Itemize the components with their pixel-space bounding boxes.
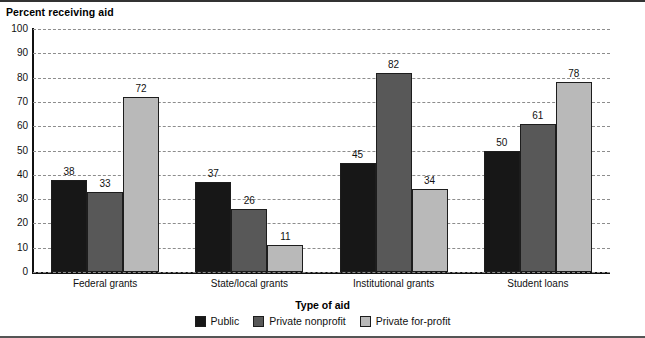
legend-item[interactable]: Public [195,316,240,327]
bar [520,124,556,272]
bar [484,151,520,273]
y-axis-tick-label: 30 [2,194,28,204]
bar-value-label: 11 [267,232,303,242]
bar [51,180,87,272]
gridline [33,102,610,103]
bar-value-label: 72 [123,84,159,94]
legend-item[interactable]: Private nonprofit [253,316,345,327]
gridline [33,78,610,79]
y-axis-tick-label: 90 [2,48,28,58]
bar-value-label: 50 [484,138,520,148]
bar [195,182,231,272]
bar [231,209,267,272]
chart-title: Percent receiving aid [6,6,114,18]
bar [340,163,376,272]
bar-value-label: 45 [340,150,376,160]
chart-legend: PublicPrivate nonprofitPrivate for-profi… [0,316,645,327]
bar-value-label: 82 [376,60,412,70]
bar-value-label: 78 [556,69,592,79]
y-axis-tick-label: 80 [2,73,28,83]
bar-value-label: 34 [412,176,448,186]
y-axis-tick-label: 70 [2,97,28,107]
plot-area: 383372372611458234506178 [33,29,610,272]
legend-swatch-icon [360,316,371,327]
y-axis-tick-label: 0 [2,267,28,277]
gridline [33,29,610,30]
y-axis-tick-labels: 1009080706050403020100 [0,29,28,272]
gridline [33,53,610,54]
legend-label: Public [211,316,240,327]
x-axis-category-label: Student loans [466,278,610,289]
legend-swatch-icon [195,316,206,327]
bar [556,82,592,272]
x-axis-category-label: Federal grants [33,278,177,289]
legend-label: Private for-profit [376,316,451,327]
x-axis-category-label: State/local grants [177,278,321,289]
y-axis-tick-label: 40 [2,170,28,180]
legend-item[interactable]: Private for-profit [360,316,451,327]
gridline [33,272,610,273]
legend-label: Private nonprofit [269,316,345,327]
y-axis-tick-label: 20 [2,218,28,228]
legend-swatch-icon [253,316,264,327]
bar-value-label: 26 [231,196,267,206]
bar-value-label: 33 [87,179,123,189]
bar [376,73,412,272]
y-axis-tick-label: 10 [2,243,28,253]
bar [123,97,159,272]
y-axis-tick-label: 50 [2,146,28,156]
y-axis-tick-label: 60 [2,121,28,131]
bar-value-label: 38 [51,167,87,177]
x-axis-category-label: Institutional grants [322,278,466,289]
y-axis-tick-label: 100 [2,24,28,34]
bar [412,189,448,272]
bar-value-label: 61 [520,111,556,121]
x-axis-title: Type of aid [0,299,645,311]
bar [87,192,123,272]
bar [267,245,303,272]
chart-figure: Percent receiving aid 100908070605040302… [0,0,645,338]
bar-value-label: 37 [195,169,231,179]
